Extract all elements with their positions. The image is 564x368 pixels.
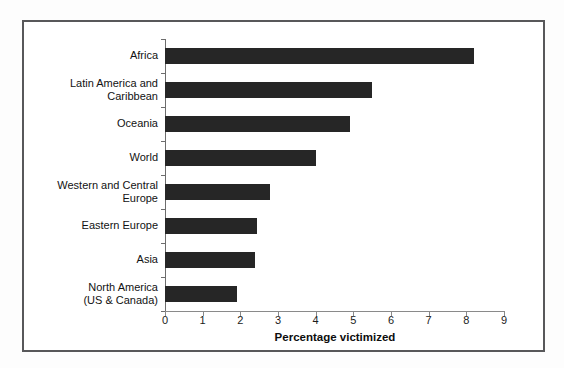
figure-root: 0123456789 AfricaLatin America and Carib… — [0, 0, 564, 368]
bar — [165, 82, 372, 98]
category-label: Africa — [8, 49, 158, 62]
category-label: Eastern Europe — [8, 219, 158, 232]
category-label: Oceania — [8, 117, 158, 130]
category-label: North America (US & Canada) — [8, 281, 158, 307]
x-axis-tick-label: 0 — [153, 314, 177, 327]
bar — [165, 150, 316, 166]
category-label: Latin America and Caribbean — [8, 77, 158, 103]
bar-row: Western and Central Europe — [165, 175, 504, 209]
bar — [165, 286, 237, 302]
x-axis-tick-label: 9 — [492, 314, 516, 327]
plot-area: 0123456789 AfricaLatin America and Carib… — [165, 39, 504, 311]
bar — [165, 48, 474, 64]
category-label: World — [8, 151, 158, 164]
x-axis-tick-label: 8 — [454, 314, 478, 327]
bar-row: Eastern Europe — [165, 209, 504, 243]
bar-row: Asia — [165, 243, 504, 277]
bar-row: World — [165, 141, 504, 175]
bar — [165, 116, 350, 132]
x-axis-line — [165, 311, 505, 312]
x-axis-tick-label: 3 — [266, 314, 290, 327]
bar — [165, 184, 270, 200]
x-axis-title: Percentage victimized — [165, 331, 505, 343]
x-axis-tick-label: 7 — [417, 314, 441, 327]
category-label: Asia — [8, 253, 158, 266]
bar-row: Latin America and Caribbean — [165, 73, 504, 107]
x-axis-tick-label: 4 — [304, 314, 328, 327]
x-axis-tick-label: 1 — [191, 314, 215, 327]
bar — [165, 252, 255, 268]
x-axis-tick-label: 2 — [228, 314, 252, 327]
bar-row: Africa — [165, 39, 504, 73]
bar-row: North America (US & Canada) — [165, 277, 504, 311]
category-label: Western and Central Europe — [8, 179, 158, 205]
x-axis-tick-label: 6 — [379, 314, 403, 327]
chart-frame: 0123456789 AfricaLatin America and Carib… — [22, 20, 545, 352]
bar — [165, 218, 257, 234]
x-axis-tick-label: 5 — [341, 314, 365, 327]
bar-row: Oceania — [165, 107, 504, 141]
